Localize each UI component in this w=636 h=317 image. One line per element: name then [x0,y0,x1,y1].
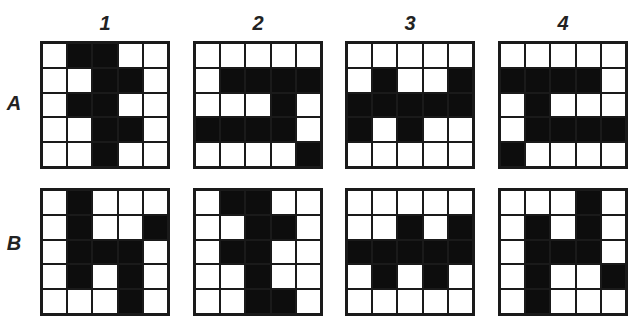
empty-cell [424,69,447,92]
empty-cell [144,44,167,67]
empty-cell [373,44,396,67]
empty-cell [272,143,295,166]
empty-cell [501,94,524,117]
filled-cell [272,94,295,117]
filled-cell [526,241,549,264]
filled-cell [373,265,396,288]
filled-cell [297,69,320,92]
empty-cell [373,216,396,239]
empty-cell [297,94,320,117]
filled-cell [398,94,421,117]
empty-cell [43,216,66,239]
empty-cell [424,44,447,67]
empty-cell [424,143,447,166]
filled-cell [551,241,574,264]
empty-cell [144,118,167,141]
empty-cell [196,143,219,166]
filled-cell [449,241,472,264]
empty-cell [196,216,219,239]
empty-cell [449,44,472,67]
filled-cell [272,290,295,313]
filled-cell [449,69,472,92]
filled-cell [196,118,219,141]
empty-cell [43,191,66,214]
empty-cell [297,44,320,67]
empty-cell [373,191,396,214]
filled-cell [551,69,574,92]
empty-cell [119,216,142,239]
empty-cell [526,44,549,67]
empty-cell [398,191,421,214]
filled-cell [221,241,244,264]
empty-cell [119,44,142,67]
empty-cell [43,290,66,313]
grid-B1 [40,188,170,316]
filled-cell [348,118,371,141]
filled-cell [246,241,269,264]
filled-cell [551,118,574,141]
filled-cell [68,191,91,214]
empty-cell [501,241,524,264]
empty-cell [297,191,320,214]
filled-cell [246,118,269,141]
empty-cell [501,44,524,67]
empty-cell [449,118,472,141]
filled-cell [348,94,371,117]
empty-cell [297,241,320,264]
filled-cell [526,69,549,92]
filled-cell [398,118,421,141]
filled-cell [93,69,116,92]
empty-cell [119,94,142,117]
empty-cell [144,143,167,166]
empty-cell [551,290,574,313]
empty-cell [449,191,472,214]
filled-cell [526,290,549,313]
empty-cell [602,94,625,117]
column-label-2: 2 [193,12,323,35]
empty-cell [398,265,421,288]
filled-cell [221,191,244,214]
empty-cell [398,44,421,67]
empty-cell [449,265,472,288]
filled-cell [246,290,269,313]
empty-cell [602,290,625,313]
empty-cell [602,69,625,92]
empty-cell [373,118,396,141]
grid-B2 [193,188,323,316]
filled-cell [93,118,116,141]
empty-cell [221,94,244,117]
empty-cell [526,191,549,214]
filled-cell [602,265,625,288]
empty-cell [93,216,116,239]
filled-cell [501,69,524,92]
empty-cell [526,143,549,166]
empty-cell [196,44,219,67]
empty-cell [68,143,91,166]
filled-cell [526,265,549,288]
empty-cell [43,265,66,288]
empty-cell [68,290,91,313]
filled-cell [398,216,421,239]
filled-cell [424,94,447,117]
filled-cell [398,241,421,264]
empty-cell [221,265,244,288]
empty-cell [297,118,320,141]
empty-cell [43,69,66,92]
empty-cell [297,265,320,288]
empty-cell [424,191,447,214]
empty-cell [221,216,244,239]
filled-cell [119,265,142,288]
grid-A1 [40,41,170,169]
filled-cell [272,69,295,92]
filled-cell [577,118,600,141]
empty-cell [221,290,244,313]
empty-cell [398,290,421,313]
filled-cell [119,69,142,92]
empty-cell [144,69,167,92]
empty-cell [449,290,472,313]
filled-cell [144,216,167,239]
empty-cell [196,290,219,313]
grid-A2 [193,41,323,169]
filled-cell [68,94,91,117]
empty-cell [221,143,244,166]
